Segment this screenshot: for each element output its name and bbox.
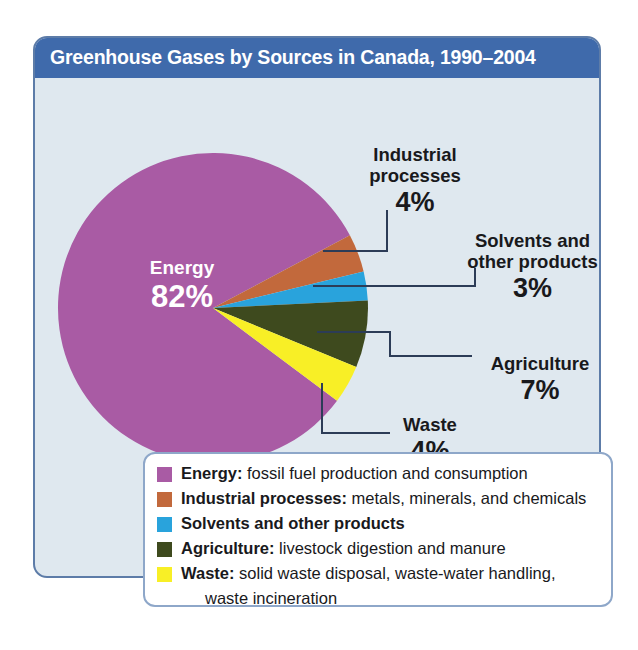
- legend-label-industrial-processes: Industrial processes: metals, minerals, …: [181, 488, 586, 510]
- legend-swatch-industrial-processes: [157, 492, 172, 507]
- slice-label-agriculture: Agriculture 7%: [455, 353, 601, 406]
- legend-label-waste: Waste: solid waste disposal, waste-water…: [181, 563, 556, 585]
- legend-item-agriculture[interactable]: Agriculture: livestock digestion and man…: [157, 538, 601, 560]
- legend-term-waste: Waste:: [181, 564, 234, 582]
- legend-label-solvents: Solvents and other products: [181, 513, 405, 535]
- legend-swatch-waste: [157, 567, 172, 582]
- slice-label-agriculture-name: Agriculture: [455, 353, 601, 374]
- slice-label-solvents: Solvents and other products 3%: [440, 230, 601, 304]
- legend-term-industrial-processes: Industrial processes:: [181, 489, 347, 507]
- slice-label-solvents-name: Solvents and other products: [440, 230, 601, 272]
- legend-label-energy: Energy: fossil fuel production and consu…: [181, 463, 528, 485]
- legend-swatch-energy: [157, 467, 172, 482]
- legend-desc-energy: fossil fuel production and consumption: [242, 464, 527, 482]
- legend-swatch-solvents: [157, 517, 172, 532]
- legend-term-solvents: Solvents and other products: [181, 514, 405, 532]
- slice-label-industrial-processes-name: Industrial processes: [335, 144, 495, 186]
- legend-swatch-agriculture: [157, 542, 172, 557]
- legend-term-agriculture: Agriculture:: [181, 539, 275, 557]
- slice-label-energy: Energy 82%: [113, 258, 251, 314]
- legend-item-industrial-processes[interactable]: Industrial processes: metals, minerals, …: [157, 488, 601, 510]
- figure-title-bar: Greenhouse Gases by Sources in Canada, 1…: [33, 36, 601, 78]
- legend-desc-industrial-processes: metals, minerals, and chemicals: [347, 489, 586, 507]
- legend-item-waste[interactable]: Waste: solid waste disposal, waste-water…: [157, 563, 601, 585]
- chart-legend: Energy: fossil fuel production and consu…: [143, 452, 613, 607]
- legend-item-solvents[interactable]: Solvents and other products: [157, 513, 601, 535]
- slice-label-waste-name: Waste: [365, 414, 495, 435]
- slice-label-industrial-processes: Industrial processes 4%: [335, 144, 495, 218]
- slice-label-energy-percent: 82%: [113, 280, 251, 314]
- legend-desc-waste: solid waste disposal, waste-water handli…: [234, 564, 555, 582]
- legend-desc-waste-continuation: waste incineration: [205, 588, 601, 610]
- legend-term-energy: Energy:: [181, 464, 242, 482]
- slice-label-industrial-processes-percent: 4%: [335, 187, 495, 218]
- slice-label-solvents-percent: 3%: [440, 273, 601, 304]
- legend-item-energy[interactable]: Energy: fossil fuel production and consu…: [157, 463, 601, 485]
- slice-label-agriculture-percent: 7%: [455, 375, 601, 406]
- slice-label-energy-name: Energy: [113, 258, 251, 279]
- legend-desc-agriculture: livestock digestion and manure: [275, 539, 506, 557]
- legend-label-agriculture: Agriculture: livestock digestion and man…: [181, 538, 506, 560]
- page-title: Greenhouse Gases by Sources in Canada, 1…: [50, 46, 536, 69]
